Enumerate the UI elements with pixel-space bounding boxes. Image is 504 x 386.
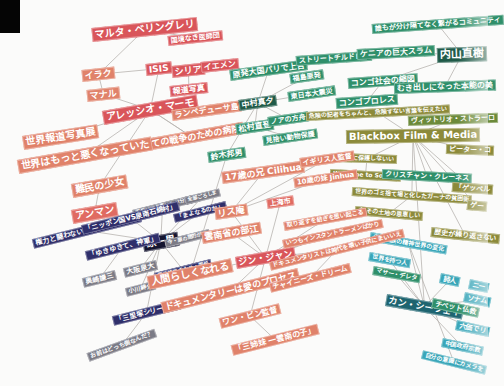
node-blackbox: Blackbox Film & Media: [346, 128, 480, 144]
node-ge: ゲー: [467, 200, 488, 212]
node-uchiyama: 内山直樹: [437, 46, 487, 62]
edge-blackbox-sekainogomi: [412, 136, 413, 196]
black-corner-block: [0, 0, 20, 33]
node-peter: ピーター・コ: [446, 144, 494, 156]
